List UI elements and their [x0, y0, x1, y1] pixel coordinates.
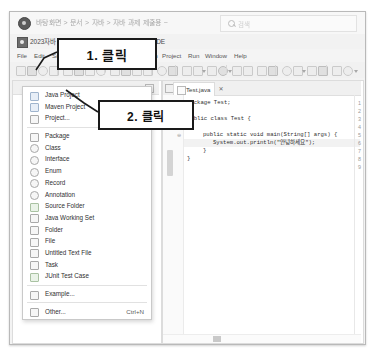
callout-step-2-label: 2. 클릭 — [127, 107, 165, 124]
screenshot-root: 바탕화면 > 문서 > 자바 > 자바 과제 제출용 ~ 검색 2023자바 -… — [0, 0, 375, 360]
callout-step-2: 2. 클릭 — [98, 100, 194, 130]
callout-step-1-label: 1. 클릭 — [87, 45, 128, 64]
callout-step-1: 1. 클릭 — [57, 38, 157, 70]
